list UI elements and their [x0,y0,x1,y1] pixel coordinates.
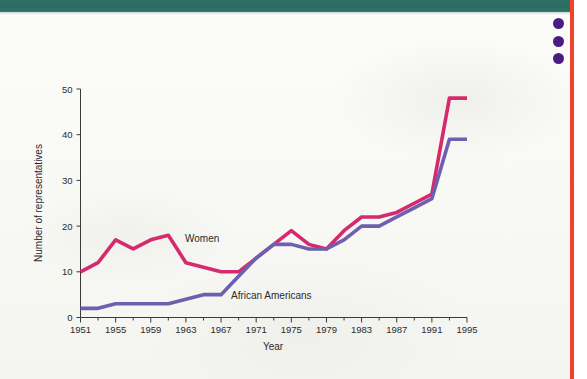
x-tick-label: 1955 [105,324,126,335]
x-tick-label: 1983 [351,324,372,335]
x-tick-label: 1967 [210,324,231,335]
y-tick-label: 20 [62,221,73,232]
series-line-african-americans [81,139,468,308]
y-axis-tick-labels: 01020304050 [62,84,73,324]
chart-page: 01020304050 1951195519591963196719711975… [0,0,587,379]
x-tick-label: 1991 [421,324,442,335]
x-tick-label: 1971 [246,324,267,335]
x-tick-label: 1979 [316,324,337,335]
x-tick-label: 1995 [456,324,477,335]
y-axis-ticks [77,89,81,318]
y-tick-label: 40 [62,129,73,140]
x-axis-title: Year [263,341,284,352]
x-tick-label: 1987 [386,324,407,335]
y-tick-label: 30 [62,175,73,186]
x-tick-label: 1975 [281,324,302,335]
y-tick-label: 0 [67,312,72,323]
x-tick-label: 1963 [175,324,196,335]
series-annotation-women: Women [185,233,219,244]
y-axis-title: Number of representatives [33,144,44,262]
x-axis-tick-labels: 1951195519591963196719711975197919831987… [70,324,478,335]
x-tick-label: 1951 [70,324,91,335]
x-tick-label: 1959 [140,324,161,335]
y-tick-label: 10 [62,266,73,277]
line-chart: 01020304050 1951195519591963196719711975… [0,0,587,379]
series-annotation-african-americans: African Americans [231,290,312,301]
y-tick-label: 50 [62,84,73,95]
